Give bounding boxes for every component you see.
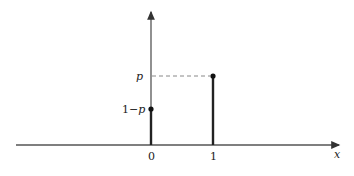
chart-canvas: p 1−p 0 1 x (0, 0, 354, 176)
y-label-1-minus-p: 1−p (122, 103, 145, 116)
pmf-chart: p 1−p 0 1 x (0, 0, 354, 176)
point-x0 (148, 106, 153, 111)
x-tick-1: 1 (210, 150, 217, 163)
x-axis-label: x (334, 148, 341, 161)
point-x1 (210, 73, 215, 78)
x-tick-0: 0 (148, 150, 155, 163)
y-label-p: p (136, 70, 143, 83)
